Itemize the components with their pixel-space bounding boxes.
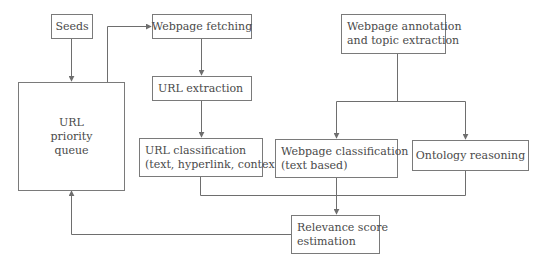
- node-ontology-reasoning: Ontology reasoning: [412, 140, 529, 171]
- node-annotation-line-1: Webpage annotation: [347, 20, 462, 34]
- node-queue-line-1: URL: [59, 116, 84, 130]
- node-relevance-line-2: estimation: [297, 235, 356, 249]
- node-url-extraction: URL extraction: [152, 76, 252, 101]
- edge-relevance-queue: [72, 191, 292, 235]
- node-webpage-fetching: Webpage fetching: [152, 14, 252, 39]
- node-url-priority-queue: URL priority queue: [18, 82, 125, 191]
- node-seeds: Seeds: [51, 14, 93, 39]
- node-extraction-label: URL extraction: [158, 82, 243, 96]
- node-ontology-label: Ontology reasoning: [416, 149, 525, 163]
- node-webpage-classification: Webpage classification (text based): [275, 139, 398, 178]
- node-webclass-line-1: Webpage classification: [281, 145, 408, 159]
- node-annotation-line-2: and topic extraction: [347, 34, 459, 48]
- node-relevance-line-1: Relevance score: [297, 221, 388, 235]
- node-seeds-label: Seeds: [55, 20, 88, 34]
- node-fetching-label: Webpage fetching: [152, 20, 253, 34]
- node-urlclass-line-1: URL classification: [145, 144, 246, 158]
- node-webpage-annotation: Webpage annotation and topic extraction: [341, 14, 446, 54]
- node-queue-line-3: queue: [54, 144, 88, 158]
- node-relevance-score: Relevance score estimation: [291, 215, 380, 254]
- node-url-classification: URL classification (text, hyperlink, con…: [139, 138, 263, 177]
- node-queue-line-2: priority: [51, 130, 93, 144]
- node-urlclass-line-2: (text, hyperlink, context): [145, 158, 283, 172]
- node-webclass-line-2: (text based): [281, 159, 347, 173]
- edge-queue-fetching: [108, 27, 152, 83]
